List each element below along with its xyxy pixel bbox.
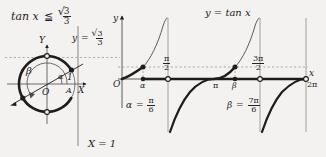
tick-pi-over-2-denominator: 2: [163, 64, 170, 72]
solution-alpha-denominator: 6: [147, 106, 154, 114]
circle-open-point-top: [45, 54, 50, 59]
circle-x-axis-label: X: [78, 86, 84, 95]
threshold-denominator: 3: [96, 39, 103, 47]
tick-label-3pi-over-2: 3π 2: [252, 55, 264, 72]
tick-label-beta: β: [232, 82, 237, 90]
beta-direction-arrow: [10, 102, 17, 106]
solution-alpha-equals: =: [136, 100, 144, 110]
tangent-curve-branch2-bold: [214, 67, 235, 79]
solution-beta-lhs: β: [227, 100, 232, 110]
graph-origin-label: O: [113, 80, 120, 89]
circle-beta-label: β: [26, 66, 32, 76]
graph-y-axis-label: y: [113, 14, 118, 23]
circle-point-a-label: A: [66, 87, 72, 95]
tick-label-pi: π: [213, 82, 218, 90]
solution-alpha-lhs: α: [126, 100, 132, 110]
graph-point-alpha-on-curve: [141, 65, 146, 70]
tangent-line-label: X = 1: [88, 139, 116, 149]
graph-x-axis-label: x: [309, 69, 314, 78]
circle-point-beta: [20, 95, 25, 100]
solution-alpha-equation: α = π 6: [126, 97, 155, 114]
threshold-value-label: y = 3 3: [72, 30, 103, 47]
tangent-curve-branch1-bold: [122, 67, 143, 79]
circle-unit-label: 1: [67, 73, 73, 82]
circle-alpha-label: α: [58, 73, 63, 81]
circle-origin-label: O: [42, 88, 49, 97]
circle-y-axis-label: Y: [39, 36, 45, 45]
math-diagram-page: tan x ≦ 3 3: [0, 0, 326, 157]
solution-beta-equation: β = 7π 6: [227, 97, 260, 114]
tick-label-pi-over-2: π 2: [163, 55, 170, 72]
tangent-curve-branch3-bold: [262, 79, 306, 132]
graph-point-beta-on-curve: [233, 65, 238, 70]
threshold-equals: =: [81, 33, 89, 43]
circle-open-point-bottom: [45, 110, 50, 115]
tick-label-2pi: 2π: [307, 81, 317, 89]
tangent-curve-branch2-lower-bold: [170, 79, 214, 132]
threshold-lhs: y: [72, 33, 77, 43]
tick-3pi-over-2-denominator: 2: [252, 64, 264, 72]
solution-arc-right-lower: [47, 98, 71, 112]
curve-equation-label: y = tan x: [205, 8, 251, 18]
solution-beta-equals: =: [236, 100, 244, 110]
figure-canvas: [0, 0, 326, 157]
graph-open-point-pi-over-2: [166, 77, 171, 82]
tick-label-alpha: α: [140, 82, 145, 90]
threshold-radical-fraction: 3 3: [92, 30, 103, 47]
graph-open-point-3pi-over-2: [258, 77, 263, 82]
solution-beta-denominator: 6: [248, 106, 260, 114]
